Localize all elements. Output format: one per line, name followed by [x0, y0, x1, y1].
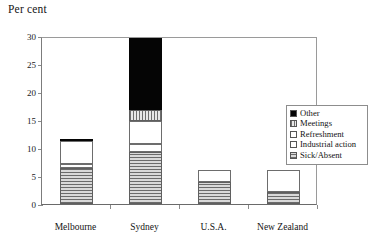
legend-item-industrial-action[interactable]: Industrial action [290, 140, 364, 150]
x-axis-label-sydney: Sydney [130, 222, 159, 232]
plot-area [41, 37, 317, 205]
stacked-bar-chart: Per cent 051015202530 MelbourneSydneyU.S… [0, 0, 376, 251]
legend-item-label: Industrial action [300, 140, 356, 149]
solid-black-icon [290, 110, 297, 117]
legend-item-refreshment[interactable]: Refreshment [290, 129, 364, 139]
y-axis-tick-label: 15 [6, 116, 36, 126]
legend-item-sick-absent[interactable]: Sick/Absent [290, 150, 364, 160]
horizontal-stripe-icon [290, 152, 297, 159]
y-axis-tick-label: 25 [6, 60, 36, 70]
y-axis-tick-label: 5 [6, 172, 36, 182]
legend-item-label: Sick/Absent [300, 151, 342, 160]
x-axis-label-new-zealand: New Zealand [257, 222, 308, 232]
x-axis-label-melbourne: Melbourne [55, 222, 97, 232]
vertical-stripe-icon [290, 120, 297, 127]
legend-item-label: Refreshment [300, 130, 344, 139]
x-axis-tick [110, 205, 111, 209]
bar-segment-melbourne-industrial-action [60, 164, 93, 168]
bar-segment-sydney-industrial-action [129, 144, 162, 152]
legend-item-label: Other [300, 109, 320, 118]
x-axis-tick [317, 205, 318, 209]
bar-segment-u-s-a-sick-absent [198, 182, 231, 204]
bar-sydney [129, 37, 162, 204]
y-axis-tick-label: 10 [6, 144, 36, 154]
y-axis-tick-label: 20 [6, 88, 36, 98]
bar-segment-melbourne-other [60, 139, 93, 141]
bar-segment-u-s-a-refreshment [198, 170, 231, 182]
bar-segment-melbourne-refreshment [60, 141, 93, 165]
y-axis-tick [38, 205, 43, 206]
y-axis-tick-label: 30 [6, 32, 36, 42]
white-icon [290, 131, 297, 138]
bar-segment-sydney-refreshment [129, 121, 162, 144]
bar-segment-sydney-meetings [129, 110, 162, 121]
bar-segment-sydney-other [129, 37, 162, 110]
bar-segment-new-zealand-sick-absent [267, 192, 300, 204]
bar-u-s-a [198, 37, 231, 204]
x-axis-tick [248, 205, 249, 209]
y-axis-title: Per cent [8, 3, 47, 15]
bar-segment-sydney-sick-absent [129, 152, 162, 204]
y-axis-tick-label: 0 [6, 200, 36, 210]
legend-item-other[interactable]: Other [290, 108, 364, 118]
x-axis-label-u-s-a: U.S.A. [200, 222, 226, 232]
chart-legend: OtherMeetingsRefreshmentIndustrial actio… [286, 105, 368, 165]
bar-melbourne [60, 37, 93, 204]
bar-segment-melbourne-sick-absent [60, 168, 93, 204]
legend-item-label: Meetings [300, 119, 332, 128]
x-axis-tick [179, 205, 180, 209]
white-icon [290, 141, 297, 148]
legend-item-meetings[interactable]: Meetings [290, 119, 364, 129]
bar-segment-new-zealand-refreshment [267, 170, 300, 192]
